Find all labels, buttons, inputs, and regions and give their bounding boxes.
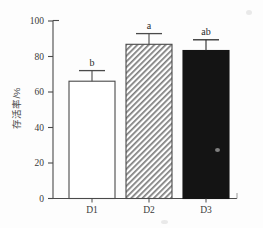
y-axis-title: 存活率/% [11, 87, 22, 129]
scan-speck [215, 148, 220, 152]
y-tick-label-100: 100 [30, 16, 45, 26]
bar-group-d2[interactable]: a [126, 20, 172, 199]
bar-group-d1[interactable]: b [69, 57, 115, 199]
x-axis-ticks [92, 199, 206, 203]
y-tick-label-20: 20 [35, 158, 45, 168]
y-tick-label-80: 80 [35, 52, 45, 62]
significance-label-d2: a [147, 20, 152, 31]
bar-d1[interactable] [69, 81, 115, 198]
significance-label-d3: ab [201, 26, 210, 37]
x-tick-label-d2: D2 [143, 205, 155, 215]
x-tick-label-d1: D1 [86, 205, 98, 215]
scan-speck [161, 220, 168, 224]
bar-d2[interactable] [126, 44, 172, 198]
figure-canvas: 0 20 40 60 80 100 存活率/% b a [0, 0, 263, 228]
bar-chart: 0 20 40 60 80 100 存活率/% b a [0, 0, 263, 228]
error-bar-d1 [79, 71, 105, 82]
error-bar-d2 [136, 34, 162, 45]
bar-group-d3[interactable]: ab [183, 26, 229, 199]
y-axis-ticks [48, 21, 53, 199]
x-tick-label-d3: D3 [200, 205, 212, 215]
y-tick-label-40: 40 [35, 123, 45, 133]
bar-d3[interactable] [183, 51, 229, 199]
y-tick-label-0: 0 [39, 194, 44, 204]
y-tick-label-60: 60 [35, 87, 45, 97]
scan-speck [246, 10, 252, 15]
significance-label-d1: b [90, 57, 95, 68]
error-bar-d3 [193, 40, 219, 51]
